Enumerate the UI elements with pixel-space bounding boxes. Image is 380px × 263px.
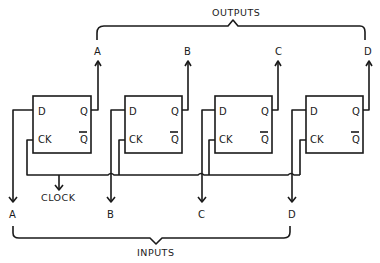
clock-label: CLOCK	[41, 192, 76, 203]
outputs-label: OUTPUTS	[212, 7, 260, 18]
svg-text:CK: CK	[310, 134, 324, 145]
register-diagram: OUTPUTS A B C D D CK Q Q D CK Q Q D CK Q…	[0, 0, 380, 263]
svg-text:Q: Q	[352, 106, 360, 117]
svg-text:D: D	[219, 106, 227, 117]
svg-text:CK: CK	[129, 134, 143, 145]
flipflop-1: D CK Q Q	[33, 96, 91, 153]
svg-text:Q: Q	[80, 106, 88, 117]
input-label-d: D	[288, 209, 296, 220]
svg-text:Q: Q	[261, 134, 269, 145]
input-label-b: B	[107, 209, 114, 220]
output-label-b: B	[184, 46, 191, 57]
svg-text:Q: Q	[261, 106, 269, 117]
svg-text:CK: CK	[38, 134, 52, 145]
svg-text:D: D	[38, 106, 46, 117]
svg-text:Q: Q	[80, 134, 88, 145]
output-label-d: D	[364, 46, 372, 57]
inputs-label: INPUTS	[137, 247, 174, 258]
svg-text:D: D	[129, 106, 137, 117]
svg-text:Q: Q	[171, 134, 179, 145]
output-label-c: C	[275, 46, 282, 57]
svg-text:CK: CK	[219, 134, 233, 145]
input-label-a: A	[9, 209, 16, 220]
input-label-c: C	[198, 209, 205, 220]
flipflop-3: D CK Q Q	[215, 96, 272, 153]
flipflop-4: D CK Q Q	[306, 96, 363, 153]
output-label-a: A	[94, 46, 101, 57]
svg-text:D: D	[310, 106, 318, 117]
flipflop-2: D CK Q Q	[125, 96, 182, 153]
svg-text:Q: Q	[171, 106, 179, 117]
inputs-brace	[13, 226, 290, 244]
outputs-brace	[97, 20, 365, 40]
svg-text:Q: Q	[352, 134, 360, 145]
